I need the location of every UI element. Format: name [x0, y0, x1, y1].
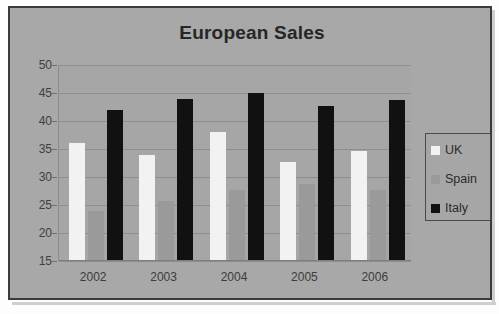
- legend-label: UK: [445, 143, 462, 157]
- y-axis-tick-mark: [52, 261, 57, 262]
- chart-frame[interactable]: European Sales 5045403530252015 20022003…: [8, 6, 492, 300]
- y-axis-tick-label: 15: [22, 255, 52, 267]
- bar-spain-2006[interactable]: [370, 190, 386, 261]
- chart-root: European Sales 5045403530252015 20022003…: [0, 0, 499, 314]
- legend-swatch-uk-icon: [431, 146, 440, 155]
- y-axis-tick-label: 45: [22, 87, 52, 99]
- gridline: [59, 93, 411, 94]
- frame-shadow-bottom: [12, 302, 496, 305]
- y-axis-tick-label: 30: [22, 171, 52, 183]
- x-axis-tick-label: 2006: [340, 270, 410, 284]
- legend-item-italy[interactable]: Italy: [431, 200, 468, 216]
- bar-spain-2004[interactable]: [229, 190, 245, 261]
- legend-swatch-spain-icon: [431, 175, 440, 184]
- gridline: [59, 65, 411, 66]
- legend-item-spain[interactable]: Spain: [431, 171, 477, 187]
- bar-uk-2004[interactable]: [210, 132, 226, 261]
- chart-legend[interactable]: UKSpainItaly: [425, 133, 491, 221]
- bar-uk-2005[interactable]: [280, 162, 296, 261]
- bar-spain-2005[interactable]: [299, 184, 315, 261]
- bar-italy-2006[interactable]: [389, 100, 405, 261]
- x-axis-tick-label: 2002: [58, 270, 128, 284]
- frame-shadow-right: [492, 10, 495, 304]
- y-axis-tick-label: 40: [22, 115, 52, 127]
- y-axis-tick-mark: [52, 177, 57, 178]
- y-axis-tick-mark: [52, 149, 57, 150]
- legend-swatch-italy-icon: [431, 204, 440, 213]
- y-axis-tick-mark: [52, 121, 57, 122]
- legend-label: Italy: [445, 201, 468, 215]
- x-axis-tick-label: 2003: [128, 270, 198, 284]
- bar-italy-2002[interactable]: [107, 110, 123, 261]
- y-axis-labels: 5045403530252015: [20, 65, 52, 261]
- bar-italy-2003[interactable]: [177, 99, 193, 261]
- bar-italy-2005[interactable]: [318, 106, 334, 261]
- chart-title: European Sales: [10, 22, 494, 44]
- y-axis-tick-label: 25: [22, 199, 52, 211]
- legend-label: Spain: [445, 172, 477, 186]
- bar-uk-2002[interactable]: [69, 143, 85, 261]
- x-axis-tick-label: 2004: [199, 270, 269, 284]
- y-axis-tick-mark: [52, 233, 57, 234]
- y-axis-tick-mark: [52, 205, 57, 206]
- y-axis-tick-label: 50: [22, 59, 52, 71]
- bar-uk-2006[interactable]: [351, 151, 367, 261]
- plot-area: [58, 65, 411, 261]
- y-axis-tick-mark: [52, 65, 57, 66]
- bar-uk-2003[interactable]: [139, 155, 155, 261]
- legend-item-uk[interactable]: UK: [431, 142, 462, 158]
- x-axis-tick-label: 2005: [269, 270, 339, 284]
- y-axis-tick-mark: [52, 93, 57, 94]
- bar-spain-2003[interactable]: [158, 201, 174, 261]
- bar-italy-2004[interactable]: [248, 93, 264, 261]
- gridline: [59, 261, 411, 262]
- y-axis-tick-label: 20: [22, 227, 52, 239]
- y-axis-tick-label: 35: [22, 143, 52, 155]
- bar-spain-2002[interactable]: [88, 211, 104, 261]
- category-axis-line: [59, 260, 411, 261]
